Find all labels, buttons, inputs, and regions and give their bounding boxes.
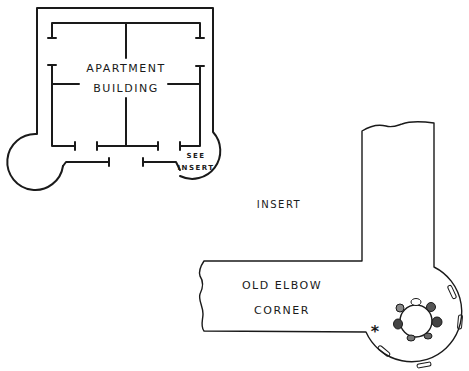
apartment-outer-wall xyxy=(7,8,220,190)
asterisk-marker: * xyxy=(371,322,380,341)
apartment-right-inner-wall xyxy=(168,66,204,150)
insert-title: INSERT xyxy=(257,199,301,210)
apartment-entry-walls xyxy=(63,158,180,170)
apartment-label-line1: APARTMENT xyxy=(86,62,165,75)
round-table-with-chairs xyxy=(394,299,443,342)
apartment-label-line2: BUILDING xyxy=(93,82,158,95)
floor-plan-diagram: APARTMENT BUILDING SEE INSERT INSERT OLD… xyxy=(0,0,469,371)
elbow-label-line2: CORNER xyxy=(254,304,310,317)
old-elbow-corner: OLD ELBOW CORNER * xyxy=(199,122,462,369)
elbow-label-line1: OLD ELBOW xyxy=(242,279,322,292)
see-insert-line1: SEE xyxy=(186,152,205,160)
apartment-left-inner-wall xyxy=(48,65,79,150)
apartment-bottom-inner-wall xyxy=(97,142,158,150)
apartment-building: APARTMENT BUILDING SEE INSERT xyxy=(7,8,220,190)
see-insert-line2: INSERT xyxy=(177,164,214,172)
